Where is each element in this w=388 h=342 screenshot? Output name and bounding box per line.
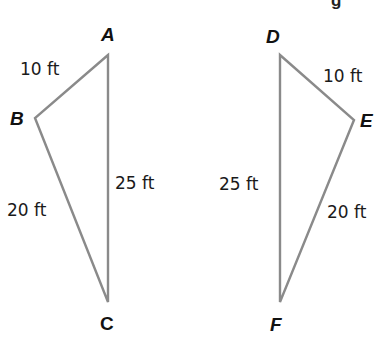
vertex-label-b: B (10, 108, 24, 129)
side-label-de: 10 ft (323, 66, 363, 86)
triangle-def: D E F 10 ft 20 ft 25 ft (219, 26, 374, 335)
vertex-label-a: A (100, 24, 115, 45)
side-label-bc: 20 ft (7, 200, 47, 220)
vertex-label-f: F (270, 314, 283, 335)
side-label-ef: 20 ft (327, 202, 367, 222)
triangle-def-outline (280, 55, 354, 302)
vertex-label-c: C (100, 313, 114, 334)
side-label-df: 25 ft (219, 174, 259, 194)
side-label-ac: 25 ft (115, 173, 155, 193)
triangle-diagram: A B C 10 ft 20 ft 25 ft D E F 10 ft 20 f… (0, 0, 388, 342)
vertex-label-e: E (360, 110, 374, 131)
side-label-ab: 10 ft (20, 59, 60, 79)
triangle-abc-outline (35, 55, 108, 302)
triangle-abc: A B C 10 ft 20 ft 25 ft (7, 24, 155, 334)
vertex-label-d: D (266, 26, 280, 47)
